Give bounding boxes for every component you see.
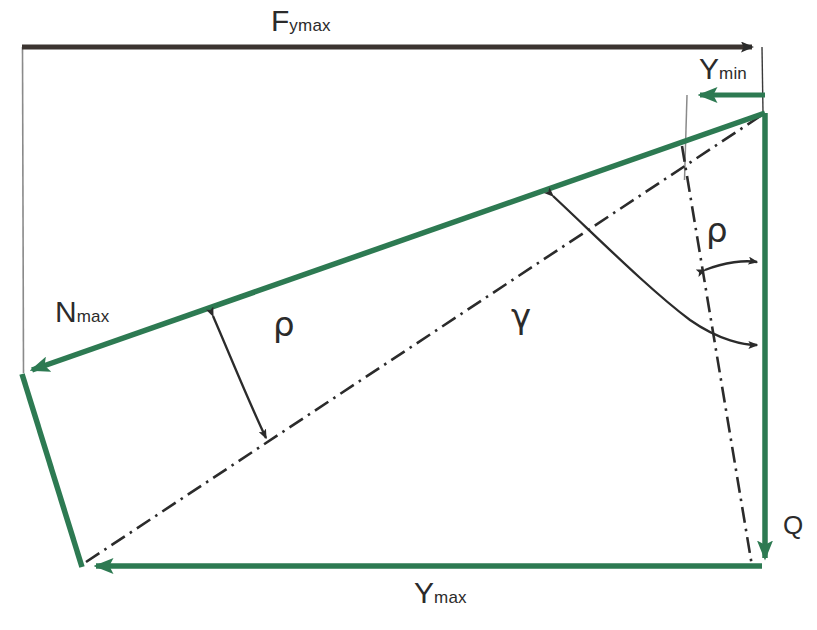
- y-max-subscript: max: [434, 589, 467, 606]
- n-max-base: N: [55, 297, 77, 327]
- rho-left-angle-arc: [213, 316, 266, 438]
- y-min-label: Ymin: [699, 54, 747, 84]
- f-ymax-subscript: ymax: [289, 17, 330, 34]
- y-min-base: Y: [699, 54, 719, 84]
- rho-right-label: ρ: [706, 213, 728, 247]
- y-max-label: Ymax: [414, 578, 467, 608]
- q-label: Q: [783, 512, 803, 538]
- vector-diagram-canvas: Fymax Ymin Nmax Ymax ρ ρ γ Q: [0, 0, 817, 630]
- gamma-label: γ: [511, 299, 531, 333]
- rho-right-angle-arc: [705, 261, 757, 270]
- reference-line-left-vertical: [23, 47, 24, 373]
- reference-line-right-vertical: [762, 47, 763, 113]
- n-max-label: Nmax: [55, 297, 109, 327]
- n-max-vector: [32, 113, 765, 370]
- y-min-subscript: min: [719, 65, 747, 82]
- dashdot-reference-line: [682, 146, 752, 566]
- f-ymax-label: Fymax: [271, 6, 331, 36]
- y-max-base: Y: [414, 578, 434, 608]
- left-edge-vector: [22, 374, 82, 567]
- f-ymax-base: F: [271, 6, 289, 36]
- vector-diagram-svg: [0, 0, 817, 630]
- dashdot-resultant-line: [86, 115, 762, 562]
- rho-left-label: ρ: [273, 307, 295, 341]
- n-max-subscript: max: [77, 308, 110, 325]
